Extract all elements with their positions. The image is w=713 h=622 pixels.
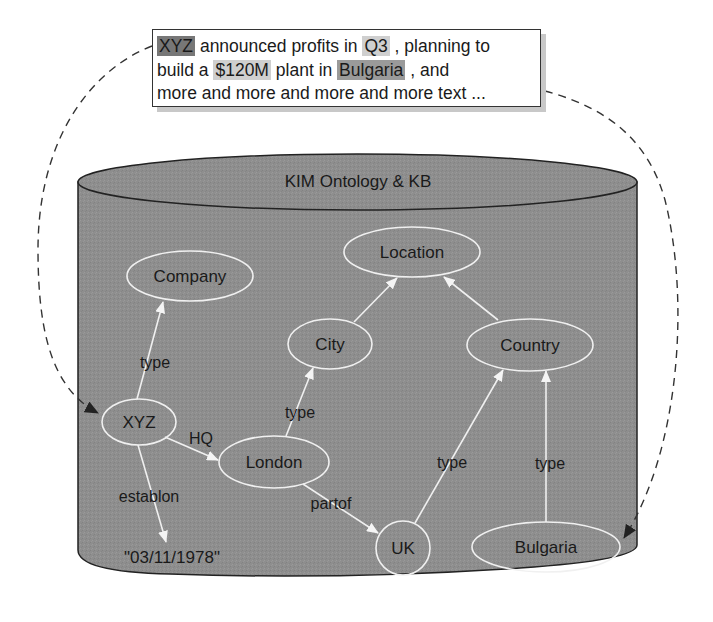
edge-label-type-uk: type [437, 454, 467, 471]
text-line-2: build a $120M plant in Bulgaria , and [157, 59, 534, 83]
entity-highlight-xyz[interactable]: XYZ [157, 36, 195, 56]
entity-highlight-money[interactable]: $120M [213, 60, 271, 80]
svg-text:City: City [315, 335, 345, 354]
text-line-1: XYZ announced profits in Q3 , planning t… [157, 35, 534, 59]
text-line-3: more and more and more and more text ... [157, 82, 534, 106]
svg-text:"03/11/1978": "03/11/1978" [124, 548, 220, 567]
svg-text:Location: Location [380, 243, 444, 262]
edge-label-type-city: type [285, 404, 315, 421]
node-date-literal: "03/11/1978" [124, 548, 220, 567]
source-text-box: XYZ announced profits in Q3 , planning t… [152, 29, 541, 107]
edge-label-establon: establon [119, 488, 180, 505]
svg-text:XYZ: XYZ [122, 413, 155, 432]
kb-title: KIM Ontology & KB [285, 172, 431, 191]
edge-label-partof: partof [311, 495, 352, 512]
edge-label-type-bulgaria: type [535, 455, 565, 472]
edge-label-hq: HQ [189, 430, 213, 447]
svg-text:UK: UK [391, 539, 415, 558]
entity-highlight-q3[interactable]: Q3 [362, 36, 389, 56]
svg-text:Company: Company [154, 267, 227, 286]
svg-text:London: London [246, 453, 303, 472]
edge-label-type-company: type [140, 354, 170, 371]
svg-text:Country: Country [500, 336, 560, 355]
svg-text:Bulgaria: Bulgaria [515, 538, 578, 557]
entity-highlight-bulgaria[interactable]: Bulgaria [337, 60, 405, 80]
